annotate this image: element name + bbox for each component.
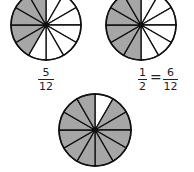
denominator: 2: [138, 81, 147, 92]
center-dot: [93, 128, 98, 133]
circle-eleven-twelfths: [59, 94, 131, 166]
denominator: 12: [38, 81, 54, 92]
fraction-label-five-twelfths: 5 12: [38, 67, 54, 92]
numerator: 6: [163, 67, 178, 78]
center-dot: [44, 23, 49, 28]
denominator: 12: [163, 81, 178, 92]
equals-sign: =: [150, 69, 162, 85]
circle-five-twelfths: [11, 0, 81, 60]
center-dot: [139, 23, 144, 28]
fraction-label-one-half: 1 2: [138, 67, 147, 92]
numerator: 1: [138, 67, 147, 78]
fraction-label-six-twelfths: 6 12: [163, 67, 178, 92]
numerator: 5: [38, 67, 54, 78]
circle-six-twelfths: [106, 0, 176, 60]
